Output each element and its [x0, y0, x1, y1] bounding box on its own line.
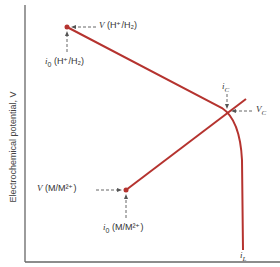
ic-arrowhead	[225, 104, 229, 109]
i0-h-label: i0 (H⁺/H₂)	[45, 56, 84, 68]
hydrogen-curve	[67, 27, 243, 250]
y-axis-label: Electrochemical potential, V	[8, 82, 18, 212]
i0-m-label: i0 (M/M²⁺)	[103, 222, 143, 234]
metal-oxidation-line	[126, 99, 246, 190]
i0-m-arrowhead	[124, 194, 128, 199]
i0-h-arrowhead	[65, 31, 69, 36]
il-label: iL	[240, 250, 246, 263]
ic-label: iC	[222, 81, 229, 94]
vc-label: VC	[256, 104, 266, 117]
h-exchange-point	[65, 25, 70, 30]
v-h-label: V (H⁺/H₂)	[99, 20, 137, 30]
v-m-arrowhead	[117, 188, 122, 192]
m-exchange-point	[124, 188, 129, 193]
v-m-label: V (M/M²⁺)	[37, 183, 77, 193]
